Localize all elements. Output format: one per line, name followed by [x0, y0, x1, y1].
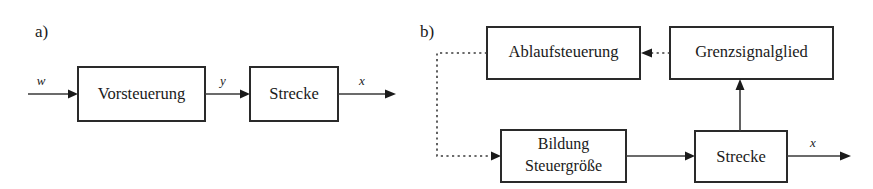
- connection-input-to-vorsteuerung: [28, 90, 78, 99]
- block-bildung-steuergroesse-label-line2: Steuergröße: [525, 157, 602, 175]
- connection-bildung-to-strecke-b: [626, 152, 695, 161]
- connection-strecke-a-to-output: [338, 90, 396, 99]
- block-strecke-b: Strecke: [695, 131, 787, 182]
- block-strecke-b-label: Strecke: [716, 147, 765, 166]
- block-strecke-a-label: Strecke: [269, 84, 318, 103]
- signal-label-y: y: [218, 73, 226, 88]
- panel-b-label: b): [420, 22, 434, 41]
- signal-label-x-a: x: [358, 73, 365, 88]
- connection-strecke-b-to-grenzsignalglied: [736, 79, 745, 131]
- block-vorsteuerung: Vorsteuerung: [78, 67, 205, 121]
- panel-a-label: a): [35, 22, 48, 41]
- block-grenzsignalglied: Grenzsignalglied: [670, 27, 833, 79]
- signal-label-w: w: [37, 73, 46, 88]
- block-diagram-svg: a) w Vorsteuerung y Strecke x: [0, 0, 873, 189]
- signal-label-x-b: x: [809, 135, 816, 150]
- connection-grenzsignalglied-to-ablaufsteuerung: [641, 49, 670, 58]
- figure-canvas: a) w Vorsteuerung y Strecke x: [0, 0, 873, 189]
- connection-strecke-b-to-output: [787, 152, 851, 161]
- block-bildung-steuergroesse: Bildung Steuergröße: [501, 130, 626, 182]
- block-bildung-steuergroesse-label-line1: Bildung: [538, 135, 590, 153]
- block-grenzsignalglied-label: Grenzsignalglied: [695, 42, 808, 61]
- block-ablaufsteuerung-label: Ablaufsteuerung: [509, 42, 619, 61]
- connection-vorsteuerung-to-strecke: [205, 90, 250, 99]
- block-ablaufsteuerung: Ablaufsteuerung: [487, 27, 640, 79]
- block-strecke-a: Strecke: [250, 67, 338, 121]
- block-vorsteuerung-label: Vorsteuerung: [98, 84, 186, 103]
